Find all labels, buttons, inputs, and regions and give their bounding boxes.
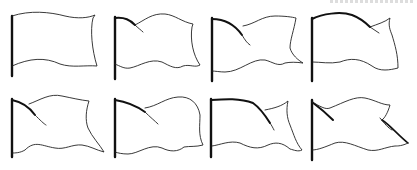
flag-fold-thin bbox=[145, 112, 158, 124]
flag-fold bbox=[312, 102, 333, 120]
flag-bottom bbox=[312, 142, 408, 150]
flag-2 bbox=[115, 14, 200, 79]
flag-twist-inner bbox=[380, 118, 392, 130]
flag-1 bbox=[12, 12, 97, 76]
flag-4 bbox=[312, 13, 398, 81]
flag-6 bbox=[115, 97, 203, 157]
flag-outline bbox=[115, 97, 203, 154]
flag-twist bbox=[382, 120, 408, 143]
flag-fold-thin bbox=[270, 123, 274, 130]
flag-outline bbox=[212, 16, 303, 72]
flag-5 bbox=[12, 95, 104, 157]
flag-outline bbox=[312, 98, 390, 120]
flag-fold-thin bbox=[135, 25, 143, 32]
flag-8 bbox=[312, 98, 408, 160]
flag-outline bbox=[313, 18, 398, 70]
flag-3 bbox=[212, 16, 303, 81]
flag-fold bbox=[115, 100, 145, 112]
flag-outline bbox=[12, 95, 104, 153]
flag-fold-thin bbox=[35, 115, 46, 125]
flag-fold bbox=[12, 100, 35, 115]
flag-outline bbox=[12, 12, 97, 66]
flag-fold-thin bbox=[370, 27, 379, 33]
flag-fold bbox=[212, 19, 242, 35]
flag-fold-thin bbox=[242, 35, 250, 45]
flag-outline bbox=[115, 14, 200, 68]
flag-7 bbox=[211, 99, 302, 157]
flag-fold bbox=[115, 18, 135, 25]
flag-outline bbox=[212, 101, 302, 151]
flags-illustration bbox=[0, 0, 417, 170]
flag-fold bbox=[211, 99, 270, 123]
flag-fold bbox=[312, 13, 370, 27]
